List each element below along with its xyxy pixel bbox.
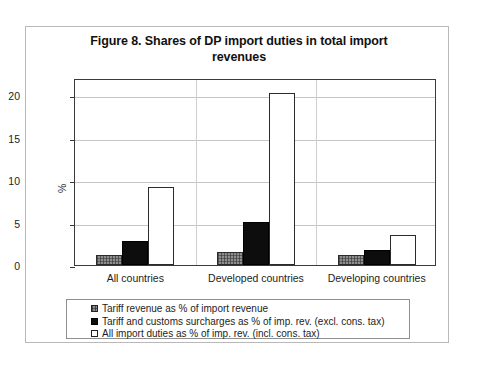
chart-title: Figure 8. Shares of DP import duties in … [66,33,412,65]
bar [338,255,364,265]
legend-swatch-icon [91,305,98,312]
legend-item[interactable]: Tariff and customs surcharges as % of im… [91,315,409,327]
gridline [75,140,435,141]
bar [217,252,243,265]
legend-swatch-icon [91,318,98,325]
chart-title-line-1: Figure 8. Shares of DP import duties in … [90,34,387,48]
legend-item[interactable]: All import duties as % of imp. rev. (inc… [91,327,409,339]
y-axis-title: % [56,184,68,193]
y-tick-mark [70,97,75,98]
bar [148,187,174,265]
y-tick-label: 5 [0,218,20,230]
group-divider [196,80,197,265]
y-tick-mark [70,267,75,268]
bar [96,255,122,265]
y-tick-mark [70,182,75,183]
x-tick-label: All countries [75,272,196,284]
gridline [75,97,435,98]
chart-title-line-2: revenues [212,50,266,64]
bar [269,93,295,265]
bar [243,222,269,265]
legend-swatch-icon [91,330,98,337]
legend-item[interactable]: Tariff revenue as % of import revenue [91,303,409,315]
group-divider [316,80,317,265]
chart-legend: Tariff revenue as % of import revenueTar… [66,299,410,339]
x-tick-label: Developing countries [316,272,437,284]
y-tick-label: 10 [0,175,20,187]
y-tick-mark [70,225,75,226]
legend-label: All import duties as % of imp. rev. (inc… [102,328,320,339]
gridline [75,182,435,183]
bar [390,235,416,265]
y-tick-label: 20 [0,90,20,102]
y-tick-label: 15 [0,133,20,145]
x-tick-label: Developed countries [196,272,317,284]
bar [122,241,148,265]
plot-area: 05101520All countriesDeveloped countries… [74,79,436,266]
bar [364,250,390,265]
y-tick-mark [70,140,75,141]
legend-label: Tariff and customs surcharges as % of im… [102,316,385,327]
y-tick-label: 0 [0,260,20,272]
figure-frame: Figure 8. Shares of DP import duties in … [25,26,449,343]
legend-label: Tariff revenue as % of import revenue [102,303,268,314]
